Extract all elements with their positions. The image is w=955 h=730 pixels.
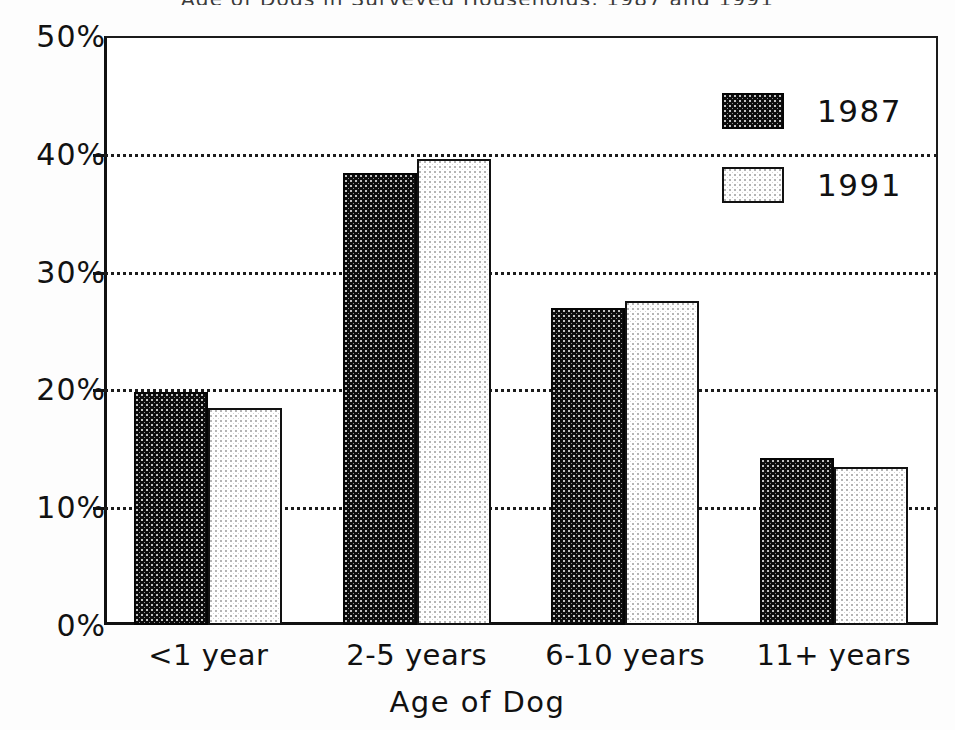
bar-1987-6-10-years	[551, 308, 625, 625]
y-axis-label-0pct: 0%	[0, 608, 106, 643]
gridline-30	[104, 272, 938, 275]
x-axis-label-11-years: 11+ years	[756, 638, 911, 672]
legend-swatch-1987-icon	[722, 93, 784, 129]
y-axis-label-20pct: 20%	[0, 372, 106, 407]
x-axis-label-6-10-years: 6-10 years	[545, 638, 705, 672]
bar-1991-11-years	[834, 467, 908, 625]
y-axis-label-50pct: 50%	[0, 19, 106, 54]
x-axis-label-2-5-years: 2-5 years	[346, 638, 487, 672]
legend-swatch-1991-icon	[722, 167, 784, 203]
legend: 1987 1991	[722, 88, 922, 236]
gridline-20	[104, 389, 938, 392]
legend-item-1987: 1987	[722, 88, 922, 134]
legend-item-1991: 1991	[722, 162, 922, 208]
y-axis-label-40pct: 40%	[0, 136, 106, 171]
chart-title-clipped: Age of Dogs in Surveyed Households, 1987…	[0, 0, 955, 5]
bar-1991--1-year	[208, 408, 282, 625]
bar-1991-2-5-years	[417, 159, 491, 625]
y-axis-label-10pct: 10%	[0, 490, 106, 525]
bar-1987--1-year	[134, 392, 208, 625]
x-axis-label--1-year: <1 year	[148, 638, 268, 672]
y-tick-30	[93, 272, 104, 275]
y-tick-40	[93, 154, 104, 157]
legend-label-1987: 1987	[817, 93, 902, 129]
bar-1987-11-years	[760, 458, 834, 625]
chart-title-text: Age of Dogs in Surveyed Households, 1987…	[0, 0, 955, 5]
y-tick-10	[93, 507, 104, 510]
x-axis-title: Age of Dog	[0, 685, 955, 719]
bar-1991-6-10-years	[625, 301, 699, 625]
legend-label-1991: 1991	[817, 167, 902, 203]
y-axis-label-30pct: 30%	[0, 254, 106, 289]
bar-chart: Age of Dogs in Surveyed Households, 1987…	[0, 0, 955, 730]
bar-1987-2-5-years	[343, 173, 417, 625]
y-tick-20	[93, 389, 104, 392]
